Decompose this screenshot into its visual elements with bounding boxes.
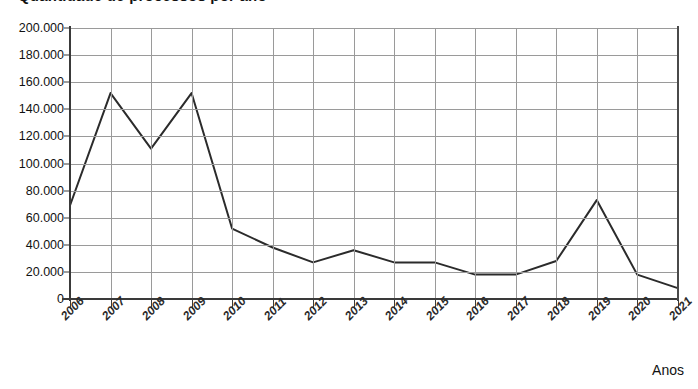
plot-right-border xyxy=(677,26,679,301)
gridline-vertical xyxy=(556,28,557,299)
gridline-vertical xyxy=(475,28,476,299)
plot-area xyxy=(70,28,678,299)
gridline-vertical xyxy=(516,28,517,299)
x-axis-title: Anos xyxy=(652,362,684,378)
gridline-vertical xyxy=(151,28,152,299)
gridline-horizontal xyxy=(70,272,678,273)
line-chart: Quantidade de processos por ano 020.0004… xyxy=(0,0,698,389)
y-axis-tick-label: 40.000 xyxy=(26,238,64,252)
gridline-horizontal xyxy=(70,28,678,29)
gridline-horizontal xyxy=(70,245,678,246)
gridline-horizontal xyxy=(70,82,678,83)
y-axis-tick-label: 60.000 xyxy=(26,211,64,225)
gridline-horizontal xyxy=(70,136,678,137)
y-axis-tick-label: 120.000 xyxy=(19,129,64,143)
y-axis-tick-label: 180.000 xyxy=(19,48,64,62)
gridline-horizontal xyxy=(70,191,678,192)
y-axis-tick-label: 80.000 xyxy=(26,184,64,198)
gridline-vertical xyxy=(637,28,638,299)
gridline-horizontal xyxy=(70,218,678,219)
gridline-vertical xyxy=(111,28,112,299)
gridline-horizontal xyxy=(70,109,678,110)
gridline-horizontal xyxy=(70,55,678,56)
y-axis-tick-label: 140.000 xyxy=(19,102,64,116)
gridline-vertical xyxy=(435,28,436,299)
gridline-vertical xyxy=(192,28,193,299)
y-axis-line xyxy=(69,26,71,301)
gridline-vertical xyxy=(232,28,233,299)
gridline-vertical xyxy=(313,28,314,299)
gridline-vertical xyxy=(394,28,395,299)
gridline-vertical xyxy=(597,28,598,299)
y-axis-tick-label: 200.000 xyxy=(19,21,64,35)
y-axis-tick-label: 160.000 xyxy=(19,75,64,89)
y-axis-tick-label: 20.000 xyxy=(26,265,64,279)
gridline-horizontal xyxy=(70,164,678,165)
y-axis-tick-labels: 020.00040.00060.00080.000100.000120.0001… xyxy=(0,0,64,389)
gridline-vertical xyxy=(354,28,355,299)
y-axis-tick-label: 100.000 xyxy=(19,157,64,171)
gridline-vertical xyxy=(273,28,274,299)
